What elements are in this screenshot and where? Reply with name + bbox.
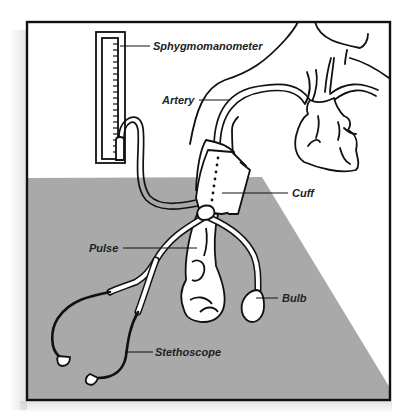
label-pulse: Pulse [89, 242, 118, 254]
label-bulb: Bulb [282, 292, 307, 304]
label-artery: Artery [161, 94, 195, 106]
label-sphygmomanometer: Sphygmomanometer [153, 40, 263, 52]
bp-diagram: Sphygmomanometer Artery Cuff Pulse Bulb … [0, 0, 411, 416]
label-stethoscope: Stethoscope [155, 346, 221, 358]
label-cuff: Cuff [292, 187, 315, 199]
sphygmomanometer-gauge [96, 32, 125, 163]
stethoscope-chestpiece [197, 206, 214, 221]
